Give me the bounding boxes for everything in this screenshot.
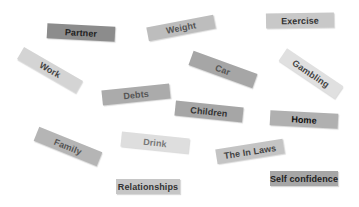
label-text: Self confidence [270, 174, 338, 184]
label-text: Children [190, 105, 228, 119]
diagram-canvas: Partner Weight Exercise Work Car Gamblin… [0, 0, 359, 207]
label-text: Drink [143, 136, 167, 148]
label-the-in-laws: The In Laws [215, 139, 285, 164]
label-text: Partner [65, 27, 98, 39]
label-text: The In Laws [223, 142, 277, 160]
label-car: Car [188, 51, 257, 88]
label-work: Work [17, 47, 83, 93]
label-partner: Partner [47, 23, 116, 42]
label-self-confidence: Self confidence [270, 171, 338, 186]
label-debts: Debts [101, 83, 170, 105]
label-weight: Weight [146, 15, 215, 42]
label-gambling: Gambling [279, 48, 344, 98]
label-text: Family [53, 136, 84, 156]
label-text: Work [38, 60, 63, 80]
label-relationships: Relationships [116, 179, 180, 194]
label-text: Gambling [291, 58, 332, 90]
label-drink: Drink [120, 131, 189, 153]
label-text: Exercise [281, 15, 319, 26]
label-text: Car [214, 62, 232, 77]
label-exercise: Exercise [266, 12, 334, 28]
label-family: Family [34, 127, 103, 166]
label-children: Children [174, 100, 243, 122]
label-home: Home [270, 110, 339, 129]
label-text: Debts [123, 88, 149, 101]
label-text: Weight [165, 20, 197, 36]
label-text: Home [291, 114, 317, 125]
label-text: Relationships [118, 182, 178, 192]
